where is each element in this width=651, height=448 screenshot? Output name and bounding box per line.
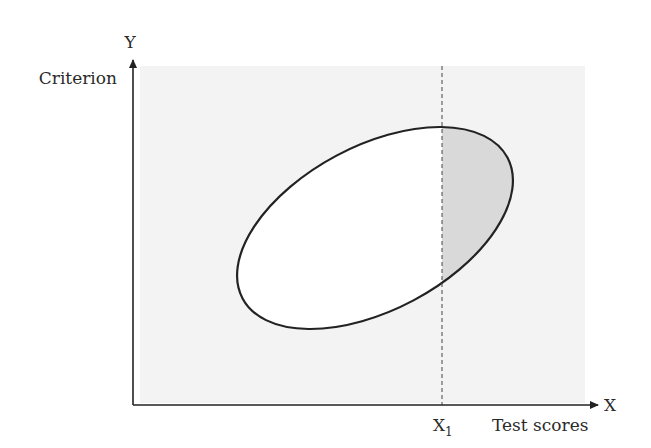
y-axis-label: Criterion: [39, 68, 117, 88]
cutoff-label-main: X: [433, 415, 446, 435]
diagram-canvas: Y Criterion X Test scores X1: [0, 0, 651, 448]
y-axis-symbol: Y: [123, 32, 136, 52]
cutoff-label: X1: [433, 415, 453, 439]
cutoff-label-subscript: 1: [445, 425, 453, 439]
x-axis-label: Test scores: [492, 415, 588, 435]
x-axis-symbol: X: [604, 395, 617, 415]
